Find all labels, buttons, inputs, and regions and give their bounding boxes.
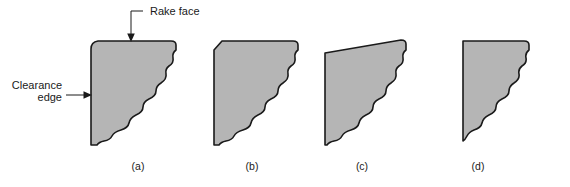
tool-profile-b: [214, 41, 298, 145]
figure-canvas: Rake face Clearance edge (a) (b) (c) (d): [0, 0, 570, 187]
rake-face-callout: Rake face: [127, 5, 199, 42]
caption-a: (a): [132, 160, 145, 172]
clearance-edge-label-line-2: edge: [38, 91, 62, 103]
clearance-edge-label-line-1: Clearance: [12, 79, 62, 91]
tool-profile-a-outline: [91, 41, 176, 145]
caption-b: (b): [246, 160, 259, 172]
tool-profile-c-outline: [325, 40, 406, 145]
rake-face-leader-line: [131, 11, 143, 34]
tool-profile-d-outline: [463, 41, 529, 141]
tool-wear-figure: Rake face Clearance edge (a) (b) (c) (d): [0, 0, 570, 187]
rake-face-label: Rake face: [150, 5, 200, 17]
tool-profile-a: [91, 41, 176, 145]
caption-c: (c): [356, 160, 368, 172]
tool-profile-c: [325, 40, 406, 145]
tool-profile-d: [463, 41, 529, 141]
caption-d: (d): [472, 160, 485, 172]
clearance-edge-callout: Clearance edge: [12, 79, 92, 103]
tool-profile-b-outline: [214, 41, 298, 145]
